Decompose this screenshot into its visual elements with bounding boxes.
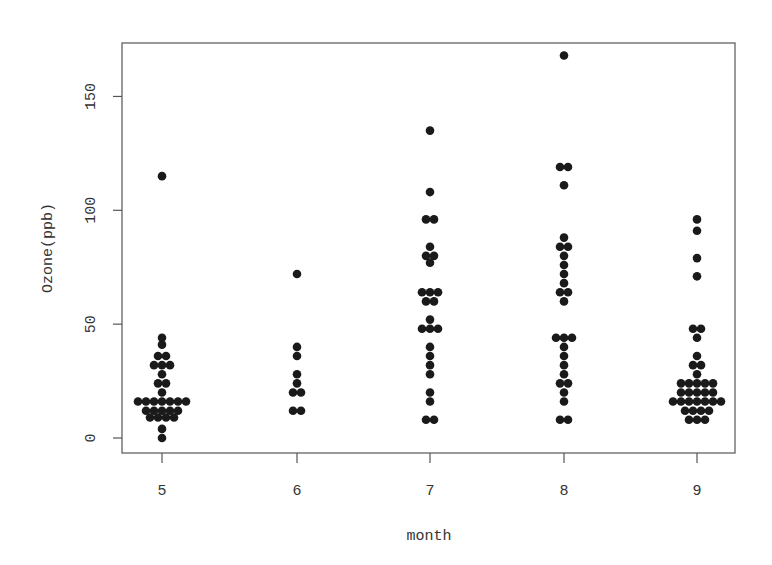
- x-tick-label: 5: [157, 483, 166, 500]
- data-point: [426, 242, 435, 251]
- data-point: [556, 288, 565, 297]
- data-point: [158, 434, 167, 443]
- data-point: [182, 397, 191, 406]
- data-point: [297, 388, 306, 397]
- data-point: [426, 288, 435, 297]
- data-point: [418, 324, 427, 333]
- data-point: [701, 379, 710, 388]
- data-point: [689, 324, 698, 333]
- data-point: [430, 415, 439, 424]
- data-point: [560, 181, 569, 190]
- data-point: [166, 361, 175, 370]
- data-point: [689, 361, 698, 370]
- data-point: [174, 397, 183, 406]
- x-tick-label: 9: [692, 483, 701, 500]
- data-point: [693, 226, 702, 235]
- data-point: [564, 242, 573, 251]
- x-axis: 56789: [157, 453, 701, 500]
- data-point: [560, 343, 569, 352]
- x-tick-label: 8: [559, 483, 568, 500]
- data-point: [564, 379, 573, 388]
- y-tick-label: 150: [83, 83, 100, 110]
- data-point: [701, 397, 710, 406]
- data-point: [434, 324, 443, 333]
- data-point: [564, 415, 573, 424]
- data-point: [693, 370, 702, 379]
- data-point: [170, 413, 179, 422]
- data-point: [552, 334, 561, 343]
- x-tick-label: 6: [292, 483, 301, 500]
- data-point: [717, 397, 726, 406]
- data-point: [158, 425, 167, 434]
- data-point: [158, 172, 167, 181]
- data-point: [560, 297, 569, 306]
- data-point: [289, 406, 298, 415]
- data-point: [564, 288, 573, 297]
- data-point: [426, 315, 435, 324]
- data-point: [560, 397, 569, 406]
- data-point: [556, 415, 565, 424]
- y-tick-label: 0: [83, 433, 100, 442]
- data-point: [560, 388, 569, 397]
- data-point: [677, 379, 686, 388]
- data-point: [693, 352, 702, 361]
- data-point: [426, 258, 435, 267]
- data-point: [422, 415, 431, 424]
- data-point: [158, 397, 167, 406]
- data-point: [422, 297, 431, 306]
- data-point: [560, 370, 569, 379]
- data-point: [418, 288, 427, 297]
- data-point: [560, 261, 569, 270]
- data-point: [158, 361, 167, 370]
- data-point: [677, 397, 686, 406]
- data-point: [154, 352, 163, 361]
- data-point: [158, 340, 167, 349]
- data-point: [426, 388, 435, 397]
- data-point: [158, 388, 167, 397]
- data-point: [560, 361, 569, 370]
- data-point: [426, 324, 435, 333]
- data-point: [166, 397, 175, 406]
- data-point: [560, 252, 569, 261]
- data-point: [293, 352, 302, 361]
- data-point: [685, 388, 694, 397]
- data-point: [426, 188, 435, 197]
- data-point: [701, 388, 710, 397]
- data-point: [556, 242, 565, 251]
- data-point: [697, 361, 706, 370]
- x-tick-label: 7: [425, 483, 434, 500]
- data-point: [162, 413, 171, 422]
- data-point: [693, 334, 702, 343]
- data-point: [564, 163, 573, 172]
- data-point: [556, 163, 565, 172]
- y-axis-label: Ozone(ppb): [40, 203, 57, 293]
- data-point: [560, 233, 569, 242]
- data-points: [134, 51, 726, 442]
- x-axis-label: month: [406, 528, 451, 545]
- data-point: [568, 334, 577, 343]
- data-point: [426, 343, 435, 352]
- data-point: [134, 397, 143, 406]
- data-point: [146, 413, 155, 422]
- data-point: [693, 215, 702, 224]
- y-tick-label: 50: [83, 315, 100, 333]
- y-tick-label: 100: [83, 197, 100, 224]
- data-point: [297, 406, 306, 415]
- data-point: [162, 352, 171, 361]
- data-point: [709, 388, 718, 397]
- data-point: [154, 413, 163, 422]
- data-point: [430, 215, 439, 224]
- beeswarm-chart: 050100150 56789 Ozone(ppb) month: [0, 0, 772, 565]
- data-point: [560, 279, 569, 288]
- data-point: [426, 352, 435, 361]
- data-point: [556, 379, 565, 388]
- data-point: [693, 379, 702, 388]
- data-point: [293, 270, 302, 279]
- data-point: [434, 288, 443, 297]
- data-point: [693, 272, 702, 281]
- data-point: [705, 406, 714, 415]
- data-point: [697, 406, 706, 415]
- data-point: [693, 388, 702, 397]
- data-point: [697, 324, 706, 333]
- data-point: [685, 379, 694, 388]
